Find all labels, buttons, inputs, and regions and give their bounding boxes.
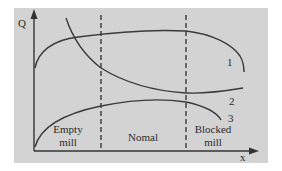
region-blocked-mill-label-line1: Blocked [195,123,232,135]
mill-operating-regions-diagram: Q x 1 2 3 Empty mill Nomal Blocked mill [0,0,282,171]
region-empty-mill-label-line2: mill [59,136,77,148]
curve-1-label: 1 [227,56,233,68]
curve-2-label: 2 [229,95,235,107]
region-blocked-mill-label-line2: mill [204,136,222,148]
x-axis-label: x [240,151,246,163]
y-axis-label: Q [18,17,26,29]
region-empty-mill-label-line1: Empty [53,123,83,135]
region-normal-label: Nomal [128,131,158,143]
